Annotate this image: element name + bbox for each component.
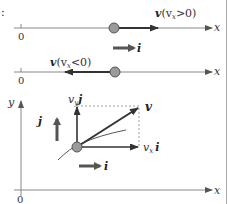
x-axis-label: x bbox=[214, 65, 221, 78]
unit-vector-i-label: i bbox=[137, 42, 141, 55]
particle bbox=[72, 142, 82, 152]
panel-negative-velocity: 0 x v(vx<0) bbox=[14, 56, 221, 86]
velocity-vector-figure: : 0 x v(vx>0) i 0 x v(vx<0) x y 0 bbox=[0, 0, 229, 204]
x-axis-label: x bbox=[214, 21, 221, 34]
panel-2d-velocity: x y 0 v vyj vxi j i bbox=[7, 93, 221, 204]
trajectory-curve bbox=[58, 130, 126, 160]
y-axis-label: y bbox=[7, 96, 15, 109]
right-border-line bbox=[226, 0, 227, 204]
velocity-label: v(vx>0) bbox=[155, 7, 196, 21]
origin-label: 0 bbox=[18, 75, 24, 86]
velocity-arrow bbox=[80, 108, 138, 145]
vx-component-label: vxi bbox=[143, 141, 159, 155]
origin-label: 0 bbox=[17, 194, 23, 204]
velocity-label: v(vx<0) bbox=[50, 56, 91, 70]
particle bbox=[109, 23, 119, 33]
unit-vector-i-label: i bbox=[104, 160, 108, 173]
velocity-label: v bbox=[145, 100, 153, 114]
particle bbox=[110, 67, 120, 77]
prefix-mark: : bbox=[1, 6, 5, 19]
vy-component-label: vyj bbox=[68, 93, 82, 107]
x-axis-label: x bbox=[214, 184, 221, 197]
unit-vector-j-label: j bbox=[36, 115, 42, 128]
panel-positive-velocity: 0 x v(vx>0) i bbox=[14, 7, 221, 55]
origin-label: 0 bbox=[18, 31, 24, 42]
